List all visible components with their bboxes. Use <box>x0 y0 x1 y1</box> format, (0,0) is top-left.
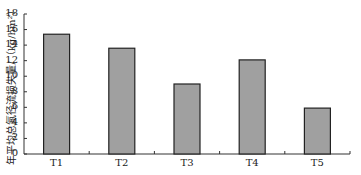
bar-t4 <box>239 60 265 154</box>
bar-t5 <box>304 108 330 154</box>
bar-t2 <box>109 48 135 154</box>
plot-area <box>0 0 361 175</box>
bar-t3 <box>174 84 200 154</box>
bar-t1 <box>44 34 70 154</box>
chart: 年平均总氮径流损失量/（kg/hm²） 024681012141618 T1T2… <box>0 0 361 175</box>
